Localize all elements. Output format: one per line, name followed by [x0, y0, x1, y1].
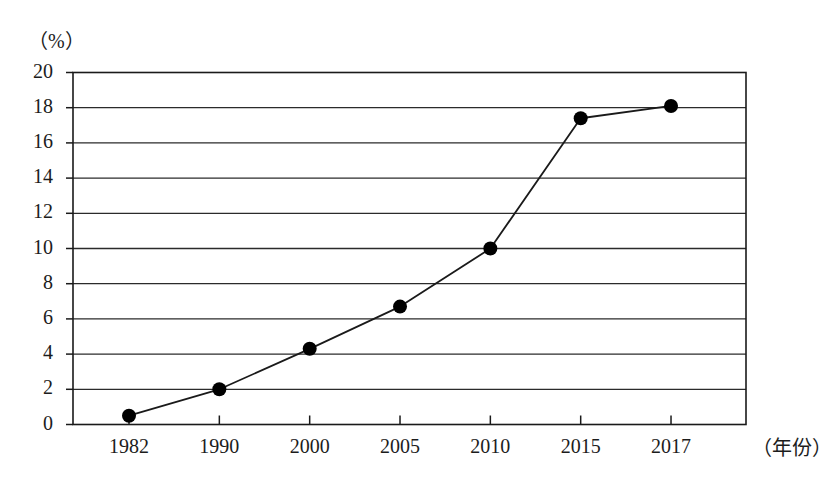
data-point-marker [664, 99, 678, 113]
x-tick-label: 2000 [265, 435, 355, 458]
y-tick-label: 16 [13, 130, 53, 153]
x-tick-label: 2017 [626, 435, 716, 458]
y-tick-label: 14 [13, 165, 53, 188]
data-point-marker [574, 111, 588, 125]
x-tick-label: 1990 [174, 435, 264, 458]
data-point-marker [483, 242, 497, 256]
data-point-marker [212, 382, 226, 396]
y-tick-label: 12 [13, 200, 53, 223]
line-chart-plot [0, 0, 832, 493]
gridlines-group [73, 108, 746, 390]
chart-container: （%） （年份） 02468101214161820 1982199020002… [0, 0, 832, 493]
y-tick-label: 18 [13, 95, 53, 118]
data-series-line [129, 106, 671, 416]
x-tick-label: 2010 [445, 435, 535, 458]
data-point-markers-group [122, 99, 678, 423]
x-tick-label: 1982 [84, 435, 174, 458]
data-point-marker [122, 409, 136, 423]
data-point-marker [303, 342, 317, 356]
x-tick-marks-group [129, 416, 671, 425]
y-tick-label: 0 [13, 412, 53, 435]
y-tick-label: 2 [13, 376, 53, 399]
y-tick-label: 4 [13, 341, 53, 364]
x-tick-label: 2005 [355, 435, 445, 458]
y-tick-label: 8 [13, 271, 53, 294]
x-tick-label: 2015 [536, 435, 626, 458]
y-tick-label: 10 [13, 236, 53, 259]
data-point-marker [393, 300, 407, 314]
y-tick-marks-group [66, 73, 73, 425]
y-tick-label: 6 [13, 306, 53, 329]
y-tick-label: 20 [13, 60, 53, 83]
